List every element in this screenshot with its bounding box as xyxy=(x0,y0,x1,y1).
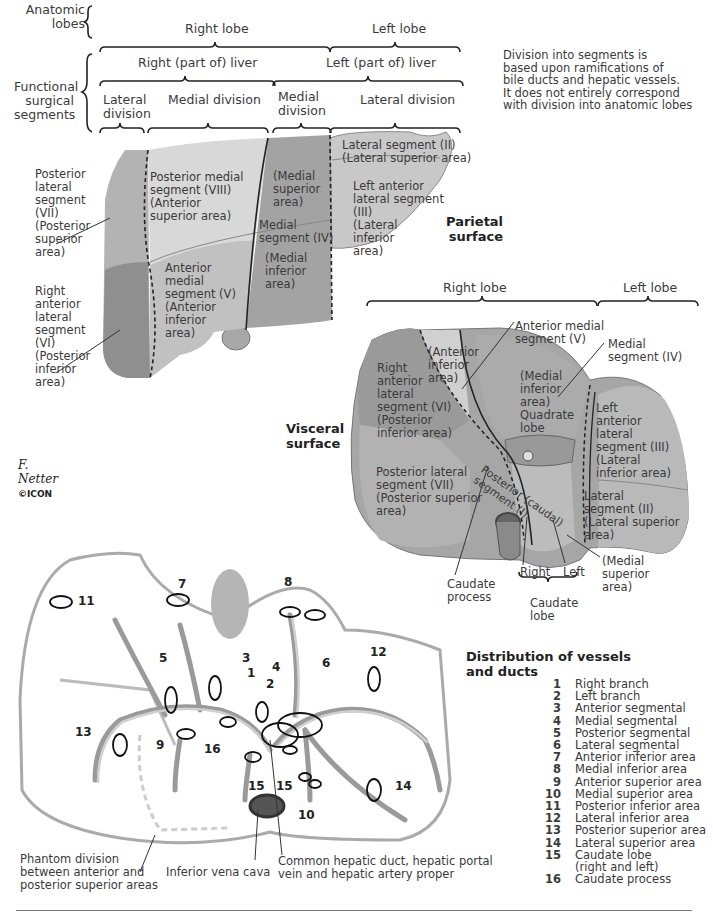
legend-item: 3Anterior segmental xyxy=(535,702,706,714)
footer-rule xyxy=(16,910,692,911)
vessel-number-14: 14 xyxy=(395,779,412,793)
vessel-number-15-right: 15 xyxy=(248,779,265,793)
vessel-number-12: 12 xyxy=(370,645,387,659)
vessel-number-15-left: 15 xyxy=(276,779,293,793)
vessel-number-7: 7 xyxy=(178,577,186,591)
legend-item: 8Medial inferior area xyxy=(535,763,706,775)
vessel-number-4: 4 xyxy=(272,660,280,674)
legend-item: 9Anterior superior area xyxy=(535,776,706,788)
ivc-label: Inferior vena cava xyxy=(166,866,270,879)
vessels-ducts-title: Distribution of vessels and ducts xyxy=(466,649,631,679)
legend-item: 16Caudate process xyxy=(535,873,706,885)
common-hepatic-label: Common hepatic duct, hepatic portal vein… xyxy=(278,855,493,881)
legend-item: 15Caudate lobe (right and left) xyxy=(535,849,706,873)
vessel-number-10: 10 xyxy=(298,808,315,822)
vessel-number-3: 3 xyxy=(242,651,250,665)
vessel-number-5: 5 xyxy=(159,651,167,665)
vessel-number-1: 1 xyxy=(247,666,255,680)
vessel-number-9: 9 xyxy=(156,738,164,752)
phantom-division-label: Phantom division between anterior and po… xyxy=(20,853,158,892)
vessels-legend: 1Right branch 2Left branch 3Anterior seg… xyxy=(535,678,706,885)
legend-item: 13Posterior superior area xyxy=(535,824,706,836)
vessel-number-16: 16 xyxy=(204,742,221,756)
legend-item: 14Lateral superior area xyxy=(535,837,706,849)
vessel-number-8: 8 xyxy=(284,575,292,589)
vessel-number-11: 11 xyxy=(78,594,95,608)
vessel-number-6: 6 xyxy=(322,656,330,670)
legend-item: 4Medial segmental xyxy=(535,715,706,727)
vessel-number-2: 2 xyxy=(266,677,274,691)
vessel-number-13: 13 xyxy=(75,725,92,739)
